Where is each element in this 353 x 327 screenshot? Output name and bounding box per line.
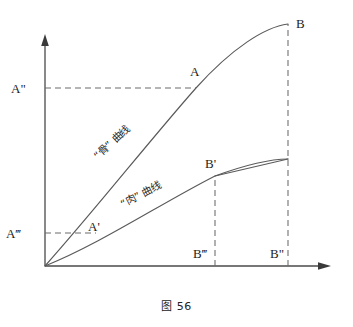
point-label-a-prime: A' [88,219,100,234]
y-label-a-triple-prime: A‴ [6,226,21,241]
x-label-b-triple-prime: B‴ [193,246,208,261]
curve-labels-group: “骨” 曲线 “肉” 曲线 [91,122,164,210]
x-label-b-double-prime: B" [270,246,284,261]
meat-curve-label: “肉” 曲线 [118,178,164,210]
figure-caption: 图 56 [0,297,353,313]
reference-guides-group [45,24,288,266]
horizontal-axis-arrow-icon [318,262,331,270]
point-label-b: B [296,16,305,31]
bone-curve [45,24,288,266]
meat-curve [45,159,288,266]
y-label-a-double-prime: A" [11,81,26,96]
point-label-a: A [190,64,200,79]
meat-curve-tail [215,159,288,176]
axis-tick-labels-group: A" A‴ B‴ B" [6,81,284,261]
curves-group [45,24,288,266]
growth-curve-chart: “骨” 曲线 “肉” 曲线 A A' B B' A" A‴ B‴ B" [0,0,353,327]
vertical-axis-arrow-icon [41,34,49,46]
figure-container: “骨” 曲线 “肉” 曲线 A A' B B' A" A‴ B‴ B" 图 56 [0,0,353,327]
point-label-b-prime: B' [205,156,216,171]
bone-curve-label: “骨” 曲线 [91,122,132,162]
